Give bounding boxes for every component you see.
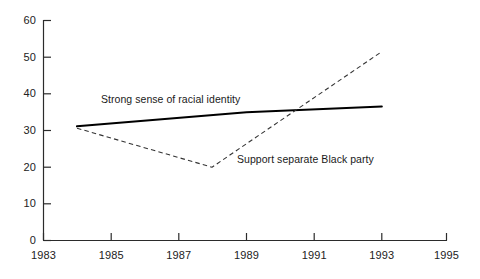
y-tick-label-0: 0	[14, 235, 36, 246]
y-tick-label-30: 30	[14, 125, 36, 136]
x-tick-label-1989: 1989	[222, 250, 271, 261]
x-tick-label-1995: 1995	[422, 250, 471, 261]
x-tick-label-1983: 1983	[19, 250, 68, 261]
series-annotation-strong-sense-of-racial-identity: Strong sense of racial identity	[101, 94, 240, 105]
x-tick-label-1987: 1987	[154, 250, 203, 261]
y-tick-label-20: 20	[14, 162, 36, 173]
y-axis-ticks	[44, 21, 52, 241]
x-axis-ticks	[44, 233, 447, 241]
y-tick-label-10: 10	[14, 198, 36, 209]
series-line-strong-sense-of-racial-identity	[77, 107, 382, 127]
line-chart: 60 50 40 30 20 10 0 1983 1985 1987 1989 …	[0, 0, 480, 279]
y-tick-label-50: 50	[14, 52, 36, 63]
x-tick-label-1991: 1991	[290, 250, 339, 261]
x-tick-label-1993: 1993	[357, 250, 406, 261]
y-tick-label-40: 40	[14, 88, 36, 99]
x-tick-label-1985: 1985	[87, 250, 136, 261]
y-tick-label-60: 60	[14, 15, 36, 26]
series-annotation-support-separate-black-party: Support separate Black party	[237, 154, 374, 165]
chart-plot-area	[0, 0, 480, 279]
